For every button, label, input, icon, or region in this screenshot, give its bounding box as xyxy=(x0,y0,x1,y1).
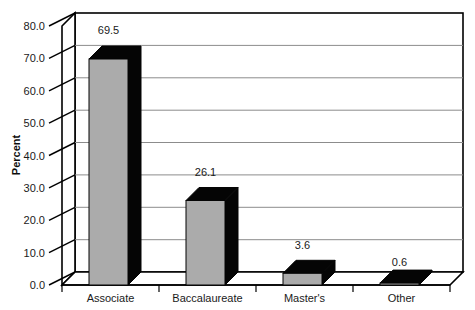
y-tick-label-40: 40.0 xyxy=(24,150,45,162)
y-tick-label-80: 80.0 xyxy=(24,20,45,32)
y-axis-title: Percent xyxy=(10,134,22,175)
x-tick-label-associate: Associate xyxy=(87,292,135,304)
x-tick-label-other: Other xyxy=(388,292,416,304)
bar-other-front-face xyxy=(380,283,419,285)
y-tick-label-60: 60.0 xyxy=(24,85,45,97)
y-tick-label-10: 10.0 xyxy=(24,247,45,259)
bar-baccalaureate-front-face xyxy=(186,201,225,286)
chart-canvas: 80.0 70.0 60.0 50.0 40.0 30.0 20.0 10.0 … xyxy=(0,0,475,310)
y-tick-label-50: 50.0 xyxy=(24,117,45,129)
bar-value-label-other: 0.6 xyxy=(392,256,407,268)
y-tick-label-70: 70.0 xyxy=(24,52,45,64)
y-tick-label-0: 0.0 xyxy=(30,279,45,291)
bar-associate[interactable]: 69.5 xyxy=(89,24,141,285)
bar-associate-front-face xyxy=(89,59,128,285)
bar-value-label-associate: 69.5 xyxy=(98,24,119,36)
bar-associate-side-face xyxy=(128,46,141,285)
y-tick-label-30: 30.0 xyxy=(24,182,45,194)
y-tick-label-20: 20.0 xyxy=(24,214,45,226)
left-side-wall xyxy=(62,13,75,285)
bar-masters-front-face xyxy=(283,273,322,285)
bar-value-label-baccalaureate: 26.1 xyxy=(195,166,216,178)
bar-baccalaureate-side-face xyxy=(225,188,238,286)
x-tick-label-masters: Master's xyxy=(284,292,326,304)
bar-chart-figure: 80.0 70.0 60.0 50.0 40.0 30.0 20.0 10.0 … xyxy=(0,0,475,310)
bar-value-label-masters: 3.6 xyxy=(295,239,310,251)
x-tick-label-baccalaureate: Baccalaureate xyxy=(172,292,242,304)
